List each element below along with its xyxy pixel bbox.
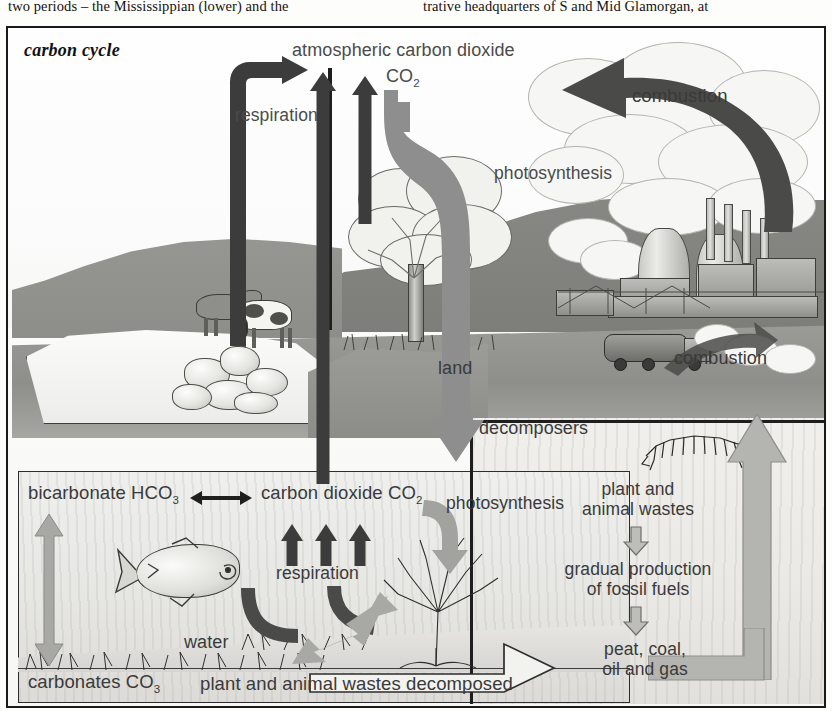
label-peat-coal-oil-and-gas: peat, coal, oil and gas: [580, 640, 710, 679]
carbonates-name: carbonates CO: [28, 671, 154, 692]
wastes-line-2: animal wastes: [576, 500, 700, 520]
carbon-cycle-figure: carbon cycle atmospheric carbon dioxide …: [6, 26, 826, 708]
truck-wheel: [614, 358, 627, 371]
wastes-line-1: plant and: [576, 480, 700, 500]
label-combustion-truck: combustion: [674, 348, 767, 368]
label-atmospheric-carbon-dioxide: atmospheric carbon dioxide: [292, 40, 515, 60]
label-photosynthesis-water: photosynthesis: [446, 494, 564, 514]
arrow-bicarbonate-double-horizontal: [190, 490, 252, 506]
fossil-line-1: gradual production: [552, 560, 724, 580]
scanned-page: two periods – the Mississippian (lower) …: [0, 0, 832, 711]
rock: [172, 384, 212, 410]
arrow-bicarbonate-exchange-vertical: [32, 514, 66, 666]
arrow-respiration-water: [348, 524, 372, 566]
body-text-column-left: two periods – the Mississippian (lower) …: [8, 0, 289, 15]
label-decomposers: decomposers: [479, 418, 588, 438]
co2-subscript: 2: [413, 77, 420, 89]
cow-leg: [204, 318, 208, 336]
arrow-chain-step-1: [623, 526, 649, 556]
fossil-line-2: of fossil fuels: [552, 580, 724, 600]
rock: [234, 392, 278, 414]
label-water: water: [184, 632, 229, 652]
label-combustion-power-station: combustion: [632, 86, 728, 107]
label-respiration-air: respiration: [235, 106, 318, 126]
arrow-co2-up-land: [352, 76, 378, 224]
arrow-combustion-power-station: [548, 46, 808, 246]
carbon-dioxide-name: carbon dioxide CO: [261, 482, 416, 503]
carbonates-subscript: 3: [154, 683, 161, 695]
label-carbonates: carbonates CO3: [28, 672, 160, 696]
label-co2-atmosphere: CO2: [386, 66, 420, 89]
arrow-respiration-ocean-up: [310, 72, 336, 484]
label-land: land: [438, 358, 472, 378]
label-carbon-dioxide-sea: carbon dioxide CO2: [261, 483, 422, 507]
arrow-respiration-water: [314, 524, 338, 566]
label-gradual-production-of-fossil-fuels: gradual production of fossil fuels: [552, 560, 724, 599]
truck-wheel: [642, 358, 655, 371]
label-bicarbonate: bicarbonate HCO3: [28, 483, 179, 507]
carbon-dioxide-subscript: 2: [416, 494, 423, 506]
label-plant-and-animal-wastes: plant and animal wastes: [576, 480, 700, 519]
label-wastes-decomposed: plant and animal wastes decomposed: [200, 674, 513, 695]
fuels-line-1: peat, coal,: [580, 640, 710, 660]
arrow-respiration-water: [280, 524, 304, 566]
co2-base: CO: [386, 66, 413, 86]
fuels-line-2: oil and gas: [580, 660, 710, 680]
bicarbonate-subscript: 3: [172, 494, 179, 506]
label-photosynthesis-land: photosynthesis: [494, 164, 612, 184]
bicarbonate-name: bicarbonate HCO: [28, 482, 172, 503]
label-respiration-water: respiration: [276, 564, 359, 584]
body-text-column-right: trative headquarters of S and Mid Glamor…: [423, 0, 709, 15]
figure-caption: carbon cycle: [24, 40, 120, 61]
arrow-chain-step-2: [623, 606, 649, 636]
industrial-detail-lines: [556, 258, 826, 318]
